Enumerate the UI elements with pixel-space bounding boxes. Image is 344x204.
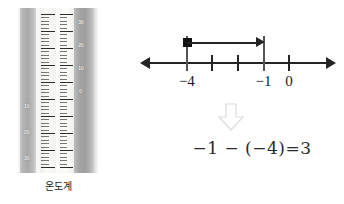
- thermometer-tick-minor: [41, 62, 49, 63]
- thermometer-tick-minor: [60, 72, 67, 73]
- thermometer-tick-major: [60, 167, 73, 168]
- thermometer-tick-minor: [41, 123, 49, 124]
- axis-label-minus4: −4: [179, 73, 195, 90]
- thermometer-tick-major: [60, 99, 73, 100]
- thermometer-label-minus-10: -10: [22, 104, 29, 110]
- thermometer-label-minus-20: -20: [22, 130, 29, 136]
- thermometer-tick-minor: [41, 96, 49, 97]
- thermometer-tick-minor: [41, 157, 49, 158]
- thermometer-tick-minor: [60, 147, 67, 148]
- thermometer-tick-minor: [41, 58, 49, 59]
- thermometer-tick-minor: [41, 126, 49, 127]
- thermometer-tick-minor: [41, 147, 49, 148]
- thermometer-tick-minor: [41, 72, 49, 73]
- thermometer-ticks-column-left: [41, 8, 55, 173]
- thermometer-tick-minor: [60, 96, 67, 97]
- thermometer-tick-minor: [60, 106, 67, 107]
- thermometer-tick-minor: [41, 45, 49, 46]
- thermometer-tick-minor: [41, 130, 49, 131]
- thermometer-tick-minor: [41, 85, 49, 86]
- thermometer-tick-minor: [60, 126, 67, 127]
- thermometer-tick-minor: [60, 58, 67, 59]
- thermometer-tick-minor: [60, 34, 67, 35]
- thermometer-casing-right: [74, 8, 94, 173]
- thermometer-tick-minor: [60, 24, 67, 25]
- thermometer-tick-major: [41, 133, 55, 134]
- thermometer-tick-minor: [60, 89, 67, 90]
- thermometer-tick-major: [41, 167, 55, 168]
- thermometer-tick-minor: [41, 164, 49, 165]
- thermometer-tick-minor: [60, 140, 67, 141]
- thermometer-tick-minor: [60, 17, 67, 18]
- thermometer-tick-minor: [41, 34, 49, 35]
- thermometer-ticks-column-middle: [60, 8, 73, 173]
- thermometer-tick-major: [41, 99, 55, 100]
- thermometer-tick-minor: [60, 51, 67, 52]
- thermometer-tick-minor: [60, 109, 67, 110]
- thermometer-label-minus-30: -30: [22, 156, 29, 162]
- thermometer-figure: 30 20 10 0 -10 -20 -30 온도계: [18, 8, 98, 200]
- thermometer-tick-minor: [60, 28, 67, 29]
- thermometer-tick-minor: [41, 28, 49, 29]
- thermometer-tick-minor: [60, 55, 67, 56]
- thermometer-tick-minor: [41, 51, 49, 52]
- axis-tick-minus2: [237, 55, 239, 71]
- thermometer-tick-minor: [41, 41, 49, 42]
- axis-tick-0: [288, 55, 290, 71]
- thermometer-tick-minor: [60, 62, 67, 63]
- thermometer-tick-minor: [41, 89, 49, 90]
- thermometer-tick-major: [60, 14, 73, 15]
- thermometer-tick-minor: [60, 143, 67, 144]
- thermometer-tick-minor: [60, 21, 67, 22]
- axis-label-0: 0: [285, 73, 293, 90]
- thermometer-tick-major: [41, 48, 55, 49]
- down-block-arrow-icon: [216, 103, 246, 131]
- thermometer-tick-minor: [41, 75, 49, 76]
- thermometer-label-30: 30: [78, 20, 84, 26]
- axis-tick-minus3: [211, 55, 213, 71]
- thermometer-label-10: 10: [78, 66, 84, 72]
- thermometer-tick-major: [60, 31, 73, 32]
- thermometer-tick-minor: [41, 17, 49, 18]
- thermometer-tick-minor: [60, 136, 67, 137]
- thermometer-tick-minor: [60, 85, 67, 86]
- jump-arrow-head-icon: [256, 37, 265, 47]
- thermometer-tick-minor: [41, 109, 49, 110]
- thermometer-tick-major: [41, 116, 55, 117]
- thermometer-tick-minor: [41, 113, 49, 114]
- thermometer-tick-minor: [41, 106, 49, 107]
- thermometer-label-20: 20: [78, 43, 84, 49]
- number-line-figure: −4−10: [140, 20, 336, 90]
- thermometer-tick-minor: [60, 153, 67, 154]
- thermometer-tick-minor: [41, 136, 49, 137]
- thermometer-tick-minor: [60, 38, 67, 39]
- thermometer-tick-minor: [60, 92, 67, 93]
- thermometer-tick-minor: [60, 123, 67, 124]
- thermometer-tick-minor: [41, 119, 49, 120]
- thermometer-tick-minor: [60, 45, 67, 46]
- thermometer-tick-major: [41, 82, 55, 83]
- thermometer-tick-minor: [41, 92, 49, 93]
- thermometer-tick-minor: [41, 24, 49, 25]
- thermometer-tick-minor: [60, 75, 67, 76]
- thermometer-tick-minor: [41, 79, 49, 80]
- thermometer-tick-major: [41, 31, 55, 32]
- axis-arrow-left-icon: [140, 57, 150, 69]
- thermometer-tick-major: [60, 48, 73, 49]
- axis-arrow-right-icon: [326, 57, 336, 69]
- thermometer-tick-minor: [60, 68, 67, 69]
- thermometer-tick-minor: [60, 157, 67, 158]
- axis-label-minus1: −1: [256, 73, 272, 90]
- thermometer-photo: 30 20 10 0 -10 -20 -30: [18, 8, 98, 173]
- thermometer-tick-minor: [60, 119, 67, 120]
- thermometer-tick-major: [60, 133, 73, 134]
- thermometer-tick-minor: [41, 102, 49, 103]
- thermometer-tick-major: [41, 150, 55, 151]
- thermometer-tick-minor: [41, 160, 49, 161]
- thermometer-casing-left: [20, 8, 36, 173]
- thermometer-tick-minor: [41, 143, 49, 144]
- thermometer-tick-minor: [41, 38, 49, 39]
- thermometer-tick-major: [60, 82, 73, 83]
- thermometer-tick-major: [41, 65, 55, 66]
- equation-text: −1 − (−4)=3: [182, 138, 322, 158]
